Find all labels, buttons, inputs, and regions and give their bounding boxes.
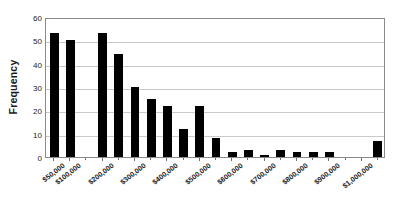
bar-bin-5 (114, 54, 123, 157)
x-axis-minor-tick-8 (183, 158, 184, 160)
bar-bin-9 (179, 129, 188, 157)
x-axis-minor-tick-11 (231, 158, 232, 160)
bar-series (46, 19, 384, 157)
plot-area (45, 18, 385, 158)
bar-bin-21 (373, 141, 382, 157)
x-axis-tick-label-3: $300,000 (118, 161, 147, 187)
x-axis-tick-label-7: $700,000 (248, 161, 277, 187)
x-axis-minor-tick-5 (134, 158, 135, 160)
bar-bin-13 (244, 150, 253, 157)
bar-bin-2 (66, 40, 75, 157)
x-axis-minor-tick-20 (377, 158, 378, 160)
x-axis-minor-tick-19 (361, 158, 362, 160)
bar-bin-8 (163, 106, 172, 157)
y-axis-tick-20: 20 (33, 107, 42, 116)
bar-bin-1 (50, 33, 59, 157)
bar-bin-10 (195, 106, 204, 157)
x-axis-tick-label-10: $1,000,000 (340, 161, 374, 190)
x-axis-minor-tick-3 (102, 158, 103, 160)
x-axis-minor-tick-2 (85, 158, 86, 160)
bar-bin-15 (276, 150, 285, 157)
y-axis-tick-50: 50 (33, 37, 42, 46)
x-axis-tick-label-2: $200,000 (86, 161, 115, 187)
y-axis-tick-0: 0 (38, 154, 42, 163)
x-axis-minor-tick-18 (345, 158, 346, 160)
x-axis-minor-tick-15 (296, 158, 297, 160)
x-axis-tick-label-8: $800,000 (280, 161, 309, 187)
bar-bin-16 (293, 152, 302, 157)
bar-bin-11 (212, 138, 221, 157)
x-axis-tick-label-6: $600,000 (216, 161, 245, 187)
bar-bin-14 (260, 155, 269, 157)
x-axis-minor-tick-1 (69, 158, 70, 160)
histogram-chart: Frequency 0102030405060 $50,000$100,000$… (0, 0, 400, 201)
x-axis-tick-labels: $50,000$100,000$200,000$300,000$400,000$… (45, 161, 390, 201)
bar-bin-7 (147, 99, 156, 157)
bar-bin-18 (325, 152, 334, 157)
x-axis-minor-tick-0 (53, 158, 54, 160)
x-axis-tick-label-9: $900,000 (313, 161, 342, 187)
x-axis-minor-tick-10 (215, 158, 216, 160)
y-axis-title-label: Frequency (7, 60, 19, 115)
bar-bin-4 (98, 33, 107, 157)
x-axis-tick-label-4: $400,000 (151, 161, 180, 187)
y-axis-tick-60: 60 (33, 14, 42, 23)
y-axis-tick-labels: 0102030405060 (22, 12, 44, 160)
x-axis-minor-tick-9 (199, 158, 200, 160)
x-axis-minor-tick-4 (118, 158, 119, 160)
bar-bin-17 (309, 152, 318, 157)
x-axis-minor-tick-7 (166, 158, 167, 160)
y-axis-tick-40: 40 (33, 60, 42, 69)
bar-bin-6 (131, 87, 140, 157)
x-axis-minor-tick-6 (150, 158, 151, 160)
y-axis-title: Frequency (2, 28, 24, 146)
x-axis-minor-tick-17 (328, 158, 329, 160)
x-axis-minor-tick-13 (264, 158, 265, 160)
x-axis-minor-tick-12 (247, 158, 248, 160)
x-axis-minor-tick-14 (280, 158, 281, 160)
bar-bin-12 (228, 152, 237, 157)
y-axis-tick-10: 10 (33, 130, 42, 139)
y-axis-tick-30: 30 (33, 84, 42, 93)
x-axis-tick-label-5: $500,000 (183, 161, 212, 187)
x-axis-minor-tick-16 (312, 158, 313, 160)
